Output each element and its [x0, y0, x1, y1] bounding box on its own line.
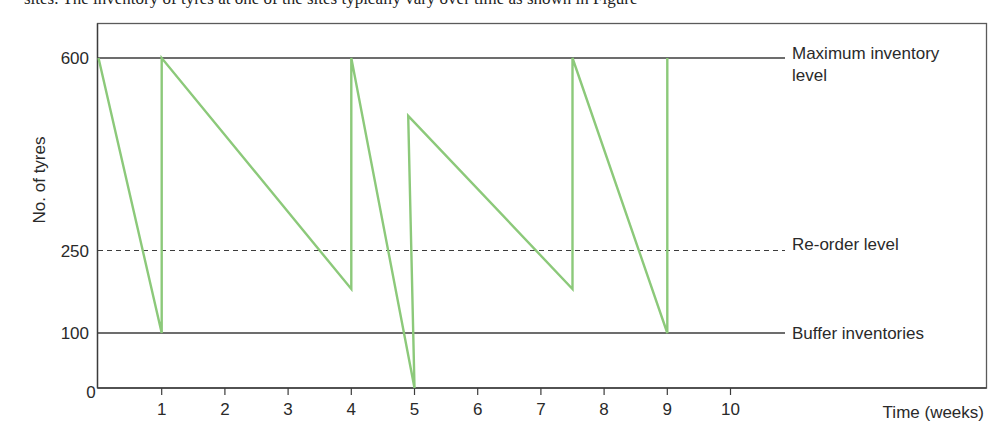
x-axis-label: Time (weeks): [883, 403, 984, 422]
y-tick-label: 100: [61, 324, 89, 343]
max-inventory-label-line2: level: [792, 66, 827, 85]
origin-label: 0: [86, 383, 95, 402]
x-axis-ticks: 12345678910: [157, 388, 740, 419]
inventory-series-line: [99, 58, 668, 388]
x-tick-label: 3: [283, 400, 292, 419]
y-axis-label: No. of tyres: [30, 137, 49, 224]
y-axis-ticks: 100250600: [61, 49, 89, 343]
x-tick-label: 2: [220, 400, 229, 419]
buffer-inventories-label: Buffer inventories: [792, 324, 924, 343]
x-tick-label: 9: [663, 400, 672, 419]
reorder-level-label: Re-order level: [792, 235, 899, 254]
inventory-chart: 12345678910 100250600 No. of tyres Time …: [0, 0, 1006, 445]
x-tick-label: 4: [347, 400, 356, 419]
x-tick-label: 10: [721, 400, 740, 419]
x-tick-label: 6: [473, 400, 482, 419]
x-tick-label: 5: [410, 400, 419, 419]
y-tick-label: 600: [61, 49, 89, 68]
x-tick-label: 1: [157, 400, 166, 419]
x-tick-label: 8: [599, 400, 608, 419]
x-tick-label: 7: [536, 400, 545, 419]
max-inventory-label-line1: Maximum inventory: [792, 44, 940, 63]
y-tick-label: 250: [61, 242, 89, 261]
